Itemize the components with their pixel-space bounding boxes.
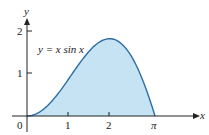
chart: y x y = x sin x 2 1 0 1 2 π (0, 0, 209, 135)
x-axis-label: x (200, 110, 205, 121)
function-label: y = x sin x (38, 44, 84, 55)
y-axis-label: y (24, 6, 29, 17)
x-axis-arrow-icon (193, 113, 200, 119)
y-axis-arrow-icon (24, 18, 30, 25)
y-tick-label-2: 2 (17, 26, 23, 37)
plot-area (0, 0, 209, 135)
y-tick-label-1: 1 (17, 68, 23, 79)
x-tick-label-pi: π (151, 120, 157, 131)
x-tick-label-2: 2 (106, 120, 112, 131)
x-tick-label-0: 0 (17, 120, 23, 131)
x-tick-label-1: 1 (65, 120, 71, 131)
